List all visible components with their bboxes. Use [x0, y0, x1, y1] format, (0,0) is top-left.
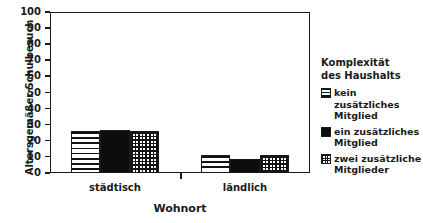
bar	[230, 159, 260, 173]
legend-swatch-icon	[321, 154, 331, 164]
x-tick-mark	[180, 173, 182, 179]
legend-item-label: kein zusätzliches Mitglied	[334, 87, 423, 122]
x-category-label: städtisch	[55, 182, 175, 193]
bar	[100, 130, 130, 173]
bar	[130, 131, 160, 173]
y-tick: 50	[0, 87, 50, 99]
legend-item[interactable]: kein zusätzliches Mitglied	[321, 87, 423, 122]
legend-item[interactable]: ein zusätzliches Mitglied	[321, 126, 423, 149]
y-tick-label: 70	[27, 54, 41, 66]
y-tick-label: 50	[27, 87, 41, 99]
legend-item-label: zwei zusätzliche Mitglieder	[334, 153, 421, 176]
y-tick-label: 30	[27, 119, 41, 131]
y-tick: 90	[0, 22, 50, 34]
y-tick: 80	[0, 38, 50, 50]
legend-title-line-1: Komplexität	[321, 57, 423, 70]
bar	[71, 131, 101, 173]
legend-entries: kein zusätzliches Mitgliedein zusätzlich…	[321, 87, 423, 176]
y-tick-label: 80	[27, 38, 41, 50]
bar	[260, 155, 290, 173]
y-tick: 40	[0, 103, 50, 115]
y-tick-label: 40	[27, 103, 41, 115]
bar	[201, 155, 231, 173]
legend-item[interactable]: zwei zusätzliche Mitglieder	[321, 153, 423, 176]
legend: Komplexität des Haushalts kein zusätzlic…	[321, 57, 423, 180]
legend-title: Komplexität des Haushalts	[321, 57, 423, 82]
y-tick-label: 90	[27, 22, 41, 34]
y-tick: 0	[0, 167, 50, 179]
y-tick: 60	[0, 70, 50, 82]
y-tick-label: 0	[34, 167, 41, 179]
y-tick-label: 10	[27, 151, 41, 163]
y-tick: 20	[0, 135, 50, 147]
legend-item-label: ein zusätzliches Mitglied	[334, 126, 419, 149]
legend-swatch-icon	[321, 127, 331, 137]
y-tick-label: 100	[20, 6, 41, 18]
legend-title-line-2: des Haushalts	[321, 70, 423, 83]
y-tick-label: 60	[27, 70, 41, 82]
x-category-label: ländlich	[185, 182, 305, 193]
y-tick: 70	[0, 54, 50, 66]
y-tick-label: 20	[27, 135, 41, 147]
y-tick: 100	[0, 6, 50, 18]
x-axis-label: Wohnort	[50, 202, 310, 215]
y-tick: 10	[0, 151, 50, 163]
bar-chart-figure: Altersgemäßer Schulbesuch 01020304050607…	[0, 0, 423, 223]
y-tick: 30	[0, 119, 50, 131]
legend-swatch-icon	[321, 88, 331, 98]
bar-group-container	[50, 12, 310, 173]
